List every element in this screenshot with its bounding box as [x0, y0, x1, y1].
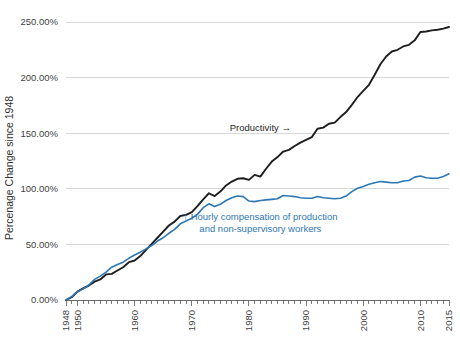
x-tick-label: 1948 [60, 310, 71, 331]
y-tick-label: 100.00% [20, 183, 58, 194]
x-tick-label: 1970 [186, 310, 197, 331]
chart-svg: 0.00%50.00%100.00%150.00%200.00%250.00% … [0, 0, 460, 342]
series-lines-group [66, 27, 449, 300]
x-axis-tickmarks [66, 300, 449, 306]
x-tick-label: 2000 [358, 310, 369, 331]
x-axis-tick-labels: 194819501960197019801990200020102015 [60, 310, 454, 331]
y-tick-label: 200.00% [20, 72, 58, 83]
productivity-annotation: Productivity → [230, 122, 291, 133]
annotations-group: Productivity →↑ Hourly compensation of p… [183, 122, 337, 234]
y-tick-label: 0.00% [31, 294, 58, 305]
y-tick-label: 150.00% [20, 128, 58, 139]
x-tick-label: 2015 [443, 310, 454, 331]
x-tick-label: 2010 [415, 310, 426, 331]
series-line [66, 27, 449, 300]
x-tick-label: 1960 [129, 310, 140, 331]
x-tick-label: 1950 [72, 310, 83, 331]
y-axis-tick-labels: 0.00%50.00%100.00%150.00%200.00%250.00% [20, 16, 58, 305]
compensation-annotation: ↑ Hourly compensation of productionand n… [183, 211, 337, 234]
y-tick-label: 250.00% [20, 16, 58, 27]
y-tick-label: 50.00% [26, 239, 59, 250]
productivity-pay-gap-chart: 0.00%50.00%100.00%150.00%200.00%250.00% … [0, 0, 460, 342]
y-axis-title: Percenage Change since 1948 [3, 96, 15, 240]
series-line [66, 174, 449, 300]
x-tick-label: 1990 [300, 310, 311, 331]
x-tick-label: 1980 [243, 310, 254, 331]
